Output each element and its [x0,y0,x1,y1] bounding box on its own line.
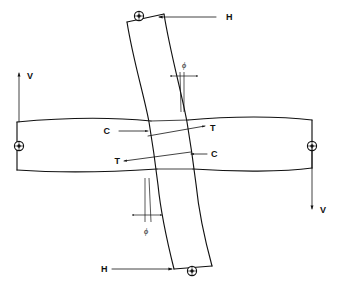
force-h-top-label: H [226,12,233,22]
compression-bottom-label: C [211,149,218,159]
angle-phi-bottom: ϕ [132,178,162,236]
column-left-edge [127,22,174,269]
beam-left-top-edge [17,118,151,122]
phi-bottom-label: ϕ [144,227,148,236]
vertical-column [127,14,212,269]
horizontal-beam-right [188,117,312,171]
pin-support-left [14,141,23,150]
tension-bottom-label: T [115,156,121,166]
force-h-bottom-label: H [101,264,108,274]
structural-joint-diagram: H H V V C T T [0,0,341,291]
compression-top-label: C [104,126,111,136]
column-right-edge [164,14,212,266]
force-v-right-label: V [320,205,326,215]
horizontal-beam-left [17,118,157,171]
angle-phi-top: ϕ [170,61,198,112]
phi-bottom-extension-line [149,178,151,222]
force-v-left-label: V [27,71,33,81]
beam-left-bottom-edge [17,169,157,172]
phi-top-extension-line [180,72,181,112]
diagram-canvas: H H V V C T T [0,0,341,291]
joint-panel-top-line [151,120,188,121]
tension-top-label: T [210,123,216,133]
phi-top-label: ϕ [182,61,186,70]
joint-panel [151,120,193,169]
column-top-cap [127,14,164,22]
tension-top-arrow [148,126,205,136]
tension-bottom-arrow [124,152,191,161]
pin-support-bottom [187,266,196,275]
pin-support-top [134,11,143,20]
beam-right-bottom-edge [193,168,312,171]
beam-right-top-edge [188,117,312,120]
